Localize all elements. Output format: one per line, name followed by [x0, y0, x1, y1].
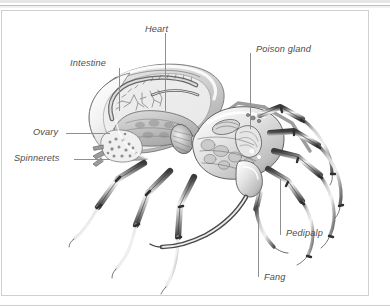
leader-pedipalp — [280, 179, 281, 235]
leader-spinnerets — [74, 159, 110, 160]
label-heart: Heart — [145, 25, 168, 34]
figure-page: Heart Intestine Poison gland Ovary Spinn… — [0, 0, 390, 306]
label-intestine: Intestine — [70, 59, 106, 68]
top-rule-lower — [0, 6, 390, 8]
figure-stage: Heart Intestine Poison gland Ovary Spinn… — [2, 11, 368, 295]
label-spinnerets: Spinnerets — [14, 154, 59, 163]
top-rule-upper — [0, 0, 390, 3]
leader-fang — [258, 207, 259, 277]
leader-heart — [165, 33, 166, 111]
leader-ovary — [66, 133, 110, 134]
leader-poison-gland — [250, 53, 251, 129]
label-ovary: Ovary — [33, 128, 58, 137]
label-pedipalp: Pedipalp — [286, 229, 323, 238]
figure-panel: Heart Intestine Poison gland Ovary Spinn… — [1, 10, 369, 296]
leader-intestine — [119, 68, 120, 111]
label-poison-gland: Poison gland — [256, 45, 311, 54]
label-fang: Fang — [264, 273, 286, 282]
